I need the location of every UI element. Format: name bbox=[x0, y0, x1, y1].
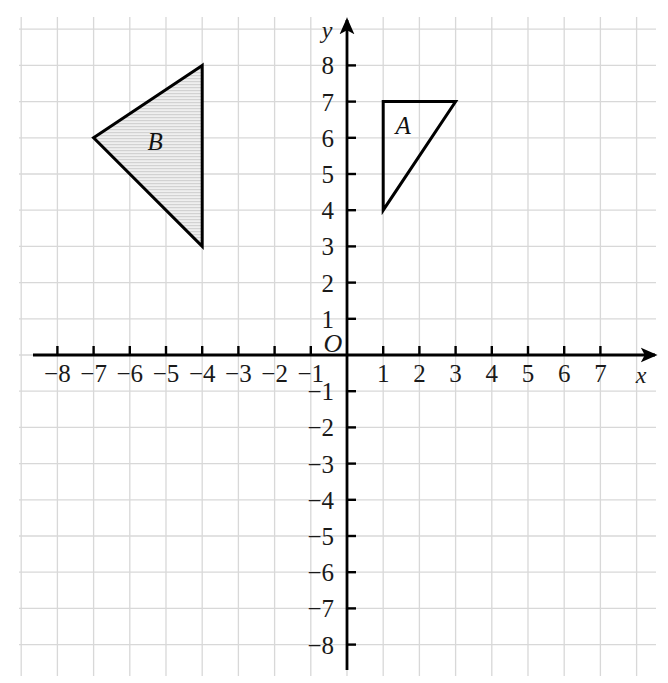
plot-svg: AB −8−7−6−5−4−3−2−1123456787654321−1−2−3… bbox=[0, 0, 668, 683]
y-tick-label: −2 bbox=[307, 414, 334, 441]
y-tick-label: 6 bbox=[322, 125, 335, 152]
x-tick-label: 4 bbox=[486, 360, 499, 387]
triangle-label-a: A bbox=[393, 112, 411, 139]
y-tick-label: −5 bbox=[307, 523, 334, 550]
y-tick-label: −3 bbox=[307, 451, 334, 478]
y-axis-label: y bbox=[320, 17, 333, 43]
x-tick-label: 5 bbox=[522, 360, 535, 387]
coordinate-plane-figure: AB −8−7−6−5−4−3−2−1123456787654321−1−2−3… bbox=[0, 0, 668, 683]
y-tick-label: 7 bbox=[322, 89, 335, 116]
x-tick-label: −5 bbox=[153, 360, 180, 387]
x-tick-label: −3 bbox=[225, 360, 252, 387]
origin-label: O bbox=[324, 329, 343, 358]
y-tick-label: −6 bbox=[307, 559, 334, 586]
x-tick-label: −4 bbox=[189, 360, 216, 387]
x-tick-label: −8 bbox=[44, 360, 71, 387]
y-tick-label: 2 bbox=[322, 270, 335, 297]
x-tick-label: 2 bbox=[413, 360, 426, 387]
x-tick-label: 7 bbox=[594, 360, 607, 387]
y-tick-label: 8 bbox=[322, 52, 335, 79]
x-tick-label: −7 bbox=[80, 360, 107, 387]
y-tick-label: −8 bbox=[307, 632, 334, 659]
y-tick-label: 3 bbox=[322, 233, 335, 260]
y-tick-label: −1 bbox=[307, 378, 334, 405]
triangle-label-b: B bbox=[147, 128, 162, 155]
x-tick-label: 1 bbox=[377, 360, 390, 387]
x-tick-label: 3 bbox=[449, 360, 462, 387]
y-tick-label: 4 bbox=[322, 197, 335, 224]
x-tick-label: 6 bbox=[558, 360, 571, 387]
y-tick-label: 5 bbox=[322, 161, 335, 188]
y-tick-label: −4 bbox=[307, 487, 334, 514]
y-tick-label: −7 bbox=[307, 595, 334, 622]
x-tick-label: −6 bbox=[116, 360, 143, 387]
x-tick-label: −2 bbox=[261, 360, 288, 387]
x-axis-label: x bbox=[635, 362, 647, 388]
